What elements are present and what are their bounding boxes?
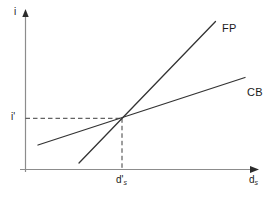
y-axis-arrowhead <box>22 9 28 17</box>
series-label-fp: FP <box>222 23 236 34</box>
economics-line-chart: FP CB i ds i' d's <box>0 0 274 199</box>
x-axis-label-base: d <box>249 174 255 185</box>
y-axis-label: i <box>14 7 16 17</box>
series-line-cb <box>38 78 245 146</box>
ds-prime-subscript: s <box>123 179 127 186</box>
x-axis-arrowhead <box>250 166 259 173</box>
x-axis <box>20 166 259 173</box>
series-line-fp <box>79 22 216 164</box>
y-axis-tick-label-i-prime: i' <box>11 112 15 122</box>
series-label-cb: CB <box>247 87 263 98</box>
y-axis <box>22 9 28 172</box>
x-axis-label-subscript: s <box>255 179 259 186</box>
x-axis-tick-label-ds-prime: d's <box>116 175 127 185</box>
x-axis-label: ds <box>249 175 258 185</box>
